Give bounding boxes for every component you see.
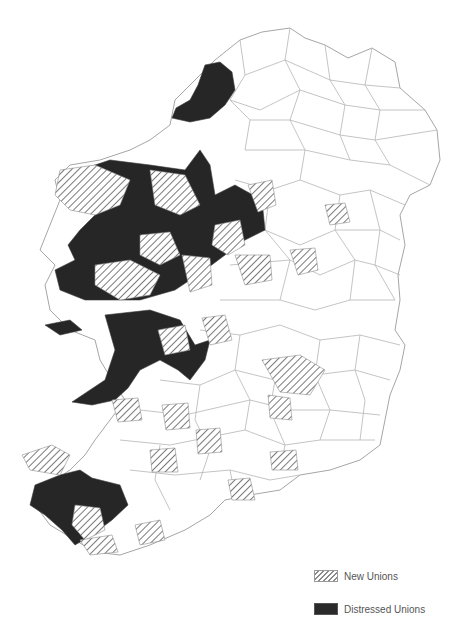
legend-item-distressed-unions: Distressed Unions <box>314 601 460 617</box>
new-union-urlingford <box>196 428 222 454</box>
legend-label: New Unions <box>344 571 398 582</box>
new-union-dungarvan <box>228 478 255 500</box>
legend-label: Distressed Unions <box>344 604 425 615</box>
new-union-donaghmore <box>268 395 292 420</box>
solid-swatch-icon <box>314 603 338 615</box>
hatched-swatch-icon <box>314 570 338 582</box>
legend-item-new-unions: New Unions <box>314 568 460 584</box>
map-legend: New Unions Distressed Unions <box>314 568 460 633</box>
new-union-newcastle <box>162 403 190 430</box>
new-union-kilrush <box>22 445 70 475</box>
new-union-castlecomer <box>270 450 298 470</box>
ireland-unions-map <box>0 0 460 633</box>
new-union-kanturk <box>150 448 178 472</box>
